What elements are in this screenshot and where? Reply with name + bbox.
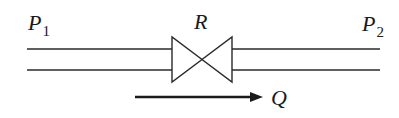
outlet-pressure-symbol: P xyxy=(362,11,375,36)
flow-label: Q xyxy=(271,87,287,109)
inlet-pressure-symbol: P xyxy=(28,10,41,35)
inlet-pressure-subscript: 1 xyxy=(42,23,50,39)
left-pipe xyxy=(27,49,172,70)
flow-arrow-icon xyxy=(135,92,263,102)
outlet-pressure-label: P2 xyxy=(362,13,384,35)
flow-arrow-head xyxy=(250,92,263,102)
valve-right-triangle xyxy=(202,37,232,82)
resistance-label: R xyxy=(194,11,207,33)
valve-icon xyxy=(172,37,232,82)
right-pipe xyxy=(232,49,380,70)
inlet-pressure-label: P1 xyxy=(28,12,50,34)
outlet-pressure-subscript: 2 xyxy=(376,24,384,40)
valve-left-triangle xyxy=(172,37,202,82)
